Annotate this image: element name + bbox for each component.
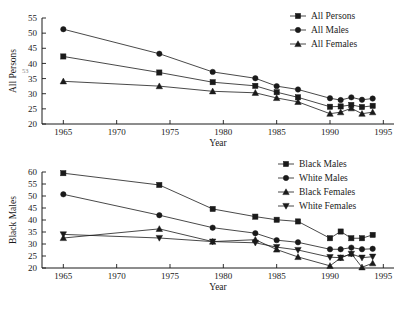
data-point (359, 104, 364, 109)
data-point (295, 240, 300, 245)
data-point (370, 246, 375, 251)
x-tick-label: 1995 (374, 271, 393, 281)
series-all-persons (61, 54, 376, 110)
ghost-artifact-text: 53 (22, 67, 29, 74)
data-point (253, 231, 258, 236)
data-point (327, 96, 332, 101)
legend-label: Black Males (299, 159, 347, 169)
x-tick-label: 1980 (214, 271, 233, 281)
data-point (338, 97, 343, 102)
legend-label: All Males (311, 25, 349, 35)
data-point (338, 104, 343, 109)
data-point (253, 83, 258, 88)
data-point (295, 219, 300, 224)
y-tick-label: 50 (28, 28, 38, 38)
data-point (349, 236, 354, 241)
y-tick-label: 60 (28, 167, 38, 177)
data-point (274, 90, 279, 95)
data-point (327, 236, 332, 241)
x-tick-label: 1985 (268, 127, 287, 137)
data-point (157, 51, 162, 56)
data-point (295, 87, 300, 92)
data-point (338, 229, 343, 234)
data-point (157, 70, 162, 75)
data-point (327, 104, 332, 109)
plot-axes (42, 172, 394, 268)
data-point (370, 96, 375, 101)
data-point (210, 225, 215, 230)
data-point (210, 80, 215, 85)
y-tick-label: 45 (28, 43, 38, 53)
legend-swatch-marker (283, 175, 288, 180)
data-point (61, 192, 66, 197)
legend-item-black-females[interactable]: Black Females (278, 187, 355, 197)
legend-item-white-males[interactable]: White Males (278, 173, 348, 183)
legend-swatch-marker (295, 13, 300, 18)
legend-swatch-marker (295, 27, 300, 32)
data-point (157, 213, 162, 218)
data-point (253, 214, 258, 219)
data-point (295, 254, 301, 260)
data-point (253, 76, 258, 81)
chart-bottom-svg: 2025303540455055601965197019751980198519… (0, 150, 407, 309)
data-point (359, 255, 365, 261)
y-axis-title: Black Males (8, 196, 18, 244)
x-tick-label: 1990 (321, 271, 340, 281)
y-tick-label: 40 (28, 59, 38, 69)
x-tick-label: 1985 (268, 271, 287, 281)
y-tick-label: 25 (28, 104, 38, 114)
y-tick-label: 55 (28, 13, 38, 23)
legend-label: All Persons (311, 11, 355, 21)
data-point (327, 247, 332, 252)
data-point (349, 245, 354, 250)
y-axis-title: All Persons (8, 49, 18, 93)
data-point (156, 226, 162, 232)
series-line (63, 56, 372, 107)
data-point (274, 237, 279, 242)
y-tick-label: 40 (28, 215, 38, 225)
series-line (63, 234, 372, 257)
data-point (274, 217, 279, 222)
y-tick-label: 30 (28, 239, 38, 249)
data-point (337, 109, 343, 115)
data-point (210, 206, 215, 211)
x-axis-title: Year (209, 138, 227, 148)
data-point (370, 232, 375, 237)
chart-panel-black-males: 2025303540455055601965197019751980198519… (0, 150, 407, 309)
data-point (274, 83, 279, 88)
y-tick-label: 55 (28, 179, 38, 189)
data-point (359, 247, 364, 252)
x-tick-label: 1975 (161, 127, 180, 137)
x-tick-label: 1995 (374, 127, 393, 137)
figure-two-panel-line-charts: 2025303540455055196519701975198019851990… (0, 0, 407, 309)
data-point (61, 27, 66, 32)
y-tick-label: 25 (28, 251, 38, 261)
legend-item-black-males[interactable]: Black Males (278, 159, 347, 169)
y-tick-label: 20 (28, 263, 38, 273)
data-point (369, 109, 375, 115)
y-tick-label: 35 (28, 74, 38, 84)
y-tick-label: 50 (28, 191, 38, 201)
legend-label: Black Females (299, 187, 355, 197)
y-tick-label: 30 (28, 89, 38, 99)
data-point (157, 182, 162, 187)
data-point (210, 69, 215, 74)
chart-panel-all-persons: 2025303540455055196519701975198019851990… (0, 0, 407, 156)
data-point (61, 171, 66, 176)
x-tick-label: 1975 (161, 271, 180, 281)
data-point (359, 97, 364, 102)
x-tick-label: 1970 (108, 271, 127, 281)
data-point (369, 260, 375, 266)
data-point (359, 236, 364, 241)
legend-item-all-females[interactable]: All Females (290, 39, 357, 49)
legend-item-all-males[interactable]: All Males (290, 25, 349, 35)
legend-label: All Females (311, 39, 357, 49)
x-tick-label: 1980 (214, 127, 233, 137)
chart-top-svg: 2025303540455055196519701975198019851990… (0, 0, 407, 156)
legend-item-all-persons[interactable]: All Persons (290, 11, 355, 21)
y-tick-label: 20 (28, 119, 38, 129)
legend-item-white-females[interactable]: White Females (278, 201, 357, 211)
data-point (370, 103, 375, 108)
legend-label: White Males (299, 173, 348, 183)
data-point (60, 78, 66, 84)
